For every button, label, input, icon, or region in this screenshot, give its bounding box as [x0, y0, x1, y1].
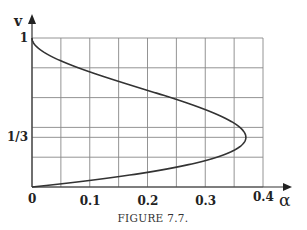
x-tick-label: 0.1 — [80, 194, 101, 208]
y-axis-label: v — [13, 13, 23, 29]
chart: 00.10.20.30.4 1/31 v α FIGURE 7.7. — [0, 0, 307, 230]
grid — [32, 38, 263, 187]
y-axis-arrow-icon — [28, 14, 36, 24]
curve-series — [32, 38, 246, 187]
y-tick-label: 1 — [20, 31, 28, 45]
y-tick-labels: 1/31 — [7, 31, 28, 144]
x-tick-label: 0.3 — [195, 194, 216, 208]
x-tick-label: 0.4 — [253, 190, 274, 204]
figure-caption: FIGURE 7.7. — [118, 212, 189, 224]
x-tick-label: 0.2 — [138, 194, 159, 208]
x-tick-labels: 00.10.20.30.4 — [28, 190, 274, 208]
x-tick-label: 0 — [28, 192, 36, 206]
axes — [28, 14, 292, 191]
y-tick-label: 1/3 — [7, 130, 28, 144]
x-axis-label: α — [279, 190, 291, 210]
